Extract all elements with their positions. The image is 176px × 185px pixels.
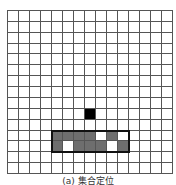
grid-cell (18, 21, 29, 32)
grid-cell (139, 43, 150, 54)
grid-cell (29, 130, 40, 141)
grid-cell (7, 53, 18, 64)
grid-cell (161, 53, 172, 64)
grid-cell (117, 53, 128, 64)
grid-cell (40, 119, 51, 130)
grid-cell (117, 10, 128, 21)
grid-cell (95, 162, 106, 173)
grid-cell (139, 162, 150, 173)
grid-cell (128, 162, 139, 173)
grid-cell (106, 151, 117, 162)
grid-cell (73, 97, 84, 108)
grid-cell (139, 32, 150, 43)
grid-cell (29, 151, 40, 162)
grid-cell (29, 64, 40, 75)
grid-cell (139, 119, 150, 130)
grid-cell (128, 108, 139, 119)
pixel-grid (7, 10, 173, 174)
grid-cell (18, 10, 29, 21)
grid-cell (29, 108, 40, 119)
grid-cell (139, 151, 150, 162)
grid-cell (51, 75, 62, 86)
grid-cell (106, 10, 117, 21)
grid-cell (18, 162, 29, 173)
grid-cell (150, 32, 161, 43)
grid-cell (161, 162, 172, 173)
grid-cell (18, 130, 29, 141)
grid-cell (40, 10, 51, 21)
grid-cell (51, 53, 62, 64)
grid-cell (51, 10, 62, 21)
grid-cell (95, 43, 106, 54)
grid-cell (161, 119, 172, 130)
grid-cell (95, 21, 106, 32)
grid-cell (117, 43, 128, 54)
grid-cell (40, 64, 51, 75)
grid-cell (161, 86, 172, 97)
grid-cell (40, 151, 51, 162)
grid-cell (51, 86, 62, 97)
grid-cell (117, 151, 128, 162)
grid-cell (128, 75, 139, 86)
grid-cell (117, 130, 128, 141)
grid-cell (51, 119, 62, 130)
grid-cell (51, 140, 62, 151)
grid-cell (150, 21, 161, 32)
grid-cell (95, 53, 106, 64)
grid-cell (106, 140, 117, 151)
grid-cell (139, 140, 150, 151)
grid-cell (51, 151, 62, 162)
grid-cell (73, 162, 84, 173)
grid-cell (18, 108, 29, 119)
grid-cell (62, 21, 73, 32)
grid-cell (7, 162, 18, 173)
grid-cell (95, 119, 106, 130)
grid-cell (150, 140, 161, 151)
grid-cell (18, 151, 29, 162)
grid-cell (139, 97, 150, 108)
grid-cell (161, 32, 172, 43)
grid-cell (117, 108, 128, 119)
grid-cell (62, 43, 73, 54)
grid-cell (84, 108, 95, 119)
grid-cell (139, 108, 150, 119)
grid-cell (51, 162, 62, 173)
grid-cell (29, 97, 40, 108)
grid-cell (73, 151, 84, 162)
grid-cell (84, 119, 95, 130)
grid-cell (84, 162, 95, 173)
grid-cell (150, 97, 161, 108)
grid-cell (18, 140, 29, 151)
grid-cell (73, 21, 84, 32)
grid-cell (106, 97, 117, 108)
grid-cell (95, 151, 106, 162)
grid-cell (40, 53, 51, 64)
grid-cell (117, 86, 128, 97)
grid-cell (7, 130, 18, 141)
grid-cell (18, 75, 29, 86)
grid-cell (128, 21, 139, 32)
grid-cell (7, 10, 18, 21)
grid-cell (62, 64, 73, 75)
grid-cell (73, 32, 84, 43)
grid-cell (95, 140, 106, 151)
grid-cell (51, 108, 62, 119)
grid-cell (161, 64, 172, 75)
grid-cell (150, 151, 161, 162)
grid-cell (128, 119, 139, 130)
grid-cell (51, 97, 62, 108)
grid-cell (40, 43, 51, 54)
grid-cell (128, 53, 139, 64)
grid-cell (73, 43, 84, 54)
grid-cell (95, 64, 106, 75)
grid-cell (18, 97, 29, 108)
grid-cell (161, 130, 172, 141)
grid-cell (73, 108, 84, 119)
grid-cell (150, 162, 161, 173)
grid-cell (150, 64, 161, 75)
grid-cell (7, 140, 18, 151)
grid-cell (117, 32, 128, 43)
grid-cell (84, 86, 95, 97)
grid-cell (106, 86, 117, 97)
grid-cell (40, 21, 51, 32)
